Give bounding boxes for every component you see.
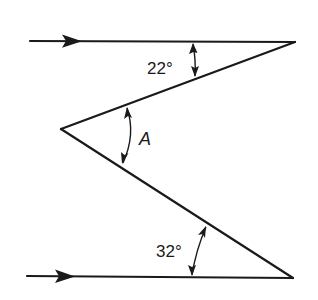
angle-a-label: A — [138, 129, 151, 149]
upper-diagonal-segment — [61, 42, 295, 129]
angle-32-arrowhead-bottom-icon — [188, 265, 196, 276]
angle-22-label: 22° — [147, 59, 173, 78]
angle-32-label: 32° — [156, 242, 182, 261]
angle-a-arrowhead-bottom-icon — [121, 152, 129, 164]
angle-22-arrowhead-top-icon — [189, 43, 198, 54]
zigzag-ray-diagram: 22° A 32° — [0, 0, 318, 300]
